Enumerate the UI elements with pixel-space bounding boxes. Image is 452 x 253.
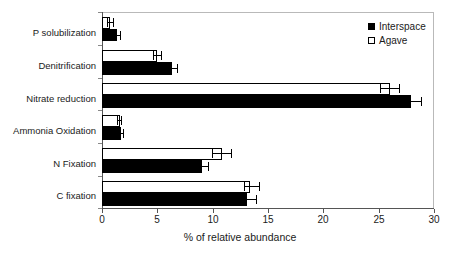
legend-swatch-interspace <box>368 23 375 30</box>
y-axis-line <box>102 12 103 209</box>
y-tick-1 <box>98 45 102 46</box>
bar-agave-n-fixation <box>102 148 222 160</box>
bar-chart-figure: P solubilization Denitrification Nitrate… <box>0 0 452 253</box>
bar-interspace-denitrification <box>102 62 172 75</box>
bar-agave-nitrate-reduction <box>102 83 390 95</box>
x-tick-20 <box>323 209 324 213</box>
category-label-n-fixation: N Fixation <box>0 159 96 169</box>
legend-swatch-agave <box>368 37 375 44</box>
x-tick-label-5: 5 <box>147 215 167 225</box>
x-tick-label-15: 15 <box>258 215 278 225</box>
x-tick-label-30: 30 <box>424 215 444 225</box>
x-tick-25 <box>379 209 380 213</box>
x-tick-0 <box>102 209 103 213</box>
bar-interspace-n-fixation <box>102 160 202 173</box>
y-tick-4 <box>98 143 102 144</box>
x-tick-label-0: 0 <box>92 215 112 225</box>
legend-label-agave: Agave <box>379 36 407 46</box>
bar-interspace-c-fixation <box>102 193 247 206</box>
category-label-c-fixation: C fixation <box>0 191 96 201</box>
x-tick-30 <box>434 209 435 213</box>
category-label-nitrate-reduction: Nitrate reduction <box>0 94 96 104</box>
x-tick-10 <box>213 209 214 213</box>
category-label-ammonia-oxidation: Ammonia Oxidation <box>0 126 96 136</box>
category-label-p-solubilization: P solubilization <box>0 28 96 38</box>
bar-agave-c-fixation <box>102 181 250 193</box>
y-tick-0 <box>98 12 102 13</box>
x-axis-title: % of relative abundance <box>40 232 440 243</box>
x-tick-15 <box>268 209 269 213</box>
bar-interspace-nitrate-reduction <box>102 95 411 108</box>
x-tick-label-25: 25 <box>369 215 389 225</box>
y-tick-3 <box>98 110 102 111</box>
category-label-denitrification: Denitrification <box>0 61 96 71</box>
y-tick-5 <box>98 176 102 177</box>
y-tick-2 <box>98 78 102 79</box>
bar-agave-denitrification <box>102 50 157 62</box>
legend-label-interspace: Interspace <box>379 22 426 32</box>
x-tick-label-10: 10 <box>203 215 223 225</box>
x-tick-label-20: 20 <box>313 215 333 225</box>
x-tick-5 <box>157 209 158 213</box>
bar-agave-p-solubilization <box>102 17 110 29</box>
